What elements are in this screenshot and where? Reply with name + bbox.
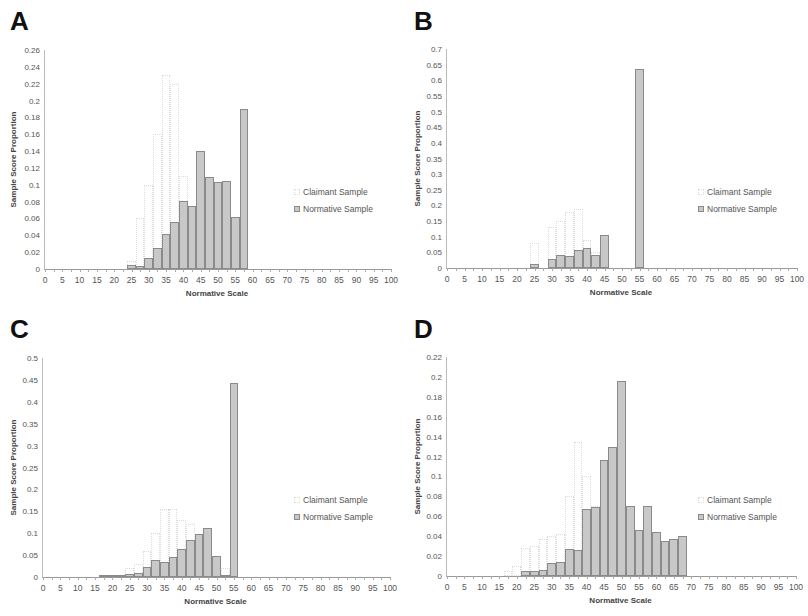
x-tick-mark <box>561 268 562 271</box>
x-tick-mark <box>365 269 366 272</box>
y-tick-label: 0.1 <box>27 529 38 538</box>
x-tick-mark <box>106 269 107 272</box>
normative-bar <box>643 506 652 576</box>
chart-panel-c: C00.050.10.150.20.250.30.350.40.450.5051… <box>0 308 404 616</box>
x-tick-mark <box>675 268 676 271</box>
x-tick-mark <box>43 577 44 580</box>
x-tick-mark <box>605 268 606 271</box>
x-tick-label: 20 <box>108 583 117 593</box>
normative-bar <box>240 109 249 269</box>
legend-item: Claimant Sample <box>698 491 777 508</box>
y-tick-label: 0.65 <box>426 60 442 69</box>
x-tick-mark <box>665 576 666 579</box>
x-tick-mark <box>234 577 235 580</box>
x-tick-label: 40 <box>582 582 591 592</box>
y-tick-label: 0.08 <box>426 492 442 501</box>
x-tick-mark <box>517 576 518 579</box>
legend-label: Normative Sample <box>303 512 373 522</box>
x-tick-mark <box>164 577 165 580</box>
x-tick-label: 100 <box>383 583 397 593</box>
y-axis-label: Sample Score Proportion <box>9 412 18 522</box>
normative-bar <box>669 539 678 576</box>
normative-bar <box>186 540 195 577</box>
y-tick-label: 0.22 <box>24 79 40 88</box>
x-tick-label: 30 <box>144 275 153 285</box>
x-tick-mark <box>190 577 191 580</box>
normative-bar <box>125 574 134 577</box>
legend-item: Normative Sample <box>294 200 373 217</box>
x-tick-label: 60 <box>248 275 257 285</box>
normative-bar <box>222 181 231 269</box>
normative-bar <box>230 383 239 577</box>
x-tick-label: 65 <box>670 274 679 284</box>
x-tick-label: 75 <box>299 583 308 593</box>
legend: Claimant SampleNormative Sample <box>294 491 373 525</box>
x-tick-mark <box>356 269 357 272</box>
x-tick-label: 65 <box>669 582 678 592</box>
x-tick-label: 45 <box>196 275 205 285</box>
x-tick-mark <box>648 576 649 579</box>
x-tick-mark <box>78 577 79 580</box>
x-tick-label: 90 <box>352 275 361 285</box>
x-tick-mark <box>761 576 762 579</box>
plot-area: 00.020.040.060.080.10.120.140.160.180.20… <box>446 357 796 577</box>
y-tick-label: 0.05 <box>22 551 38 560</box>
x-tick-label: 55 <box>634 582 643 592</box>
legend-swatch-icon <box>698 189 704 195</box>
x-tick-label: 100 <box>790 274 804 284</box>
x-tick-mark <box>465 268 466 271</box>
x-tick-mark <box>787 576 788 579</box>
x-tick-mark <box>260 577 261 580</box>
legend-label: Normative Sample <box>303 204 373 214</box>
x-tick-mark <box>796 576 797 579</box>
x-axis-label: Normative Scale <box>590 288 652 297</box>
x-tick-mark <box>209 269 210 272</box>
legend-item: Claimant Sample <box>294 491 373 508</box>
x-tick-mark <box>183 269 184 272</box>
normative-bar <box>169 557 178 577</box>
x-tick-mark <box>587 268 588 271</box>
x-tick-mark <box>710 268 711 271</box>
y-tick-label: 0 <box>34 573 38 582</box>
x-tick-mark <box>526 576 527 579</box>
x-tick-mark <box>570 268 571 271</box>
panel-label: B <box>414 6 433 37</box>
normative-bar <box>591 255 600 268</box>
x-tick-label: 85 <box>740 274 749 284</box>
legend-swatch-icon <box>698 206 704 212</box>
x-tick-label: 70 <box>687 274 696 284</box>
x-tick-mark <box>199 577 200 580</box>
y-axis-label: Sample Score Proportion <box>413 411 422 521</box>
y-tick-label: 0.25 <box>426 185 442 194</box>
x-tick-label: 10 <box>477 582 486 592</box>
normative-bar <box>108 575 117 577</box>
x-tick-mark <box>182 577 183 580</box>
x-tick-label: 95 <box>368 583 377 593</box>
y-tick-label: 0.12 <box>24 163 40 172</box>
x-tick-mark <box>261 269 262 272</box>
x-tick-mark <box>217 577 218 580</box>
x-tick-mark <box>243 577 244 580</box>
x-tick-label: 80 <box>317 275 326 285</box>
normative-bar <box>547 563 556 576</box>
x-tick-mark <box>683 576 684 579</box>
x-tick-label: 75 <box>704 582 713 592</box>
x-tick-mark <box>473 576 474 579</box>
x-tick-mark <box>121 577 122 580</box>
x-tick-label: 20 <box>512 582 521 592</box>
x-tick-mark <box>657 268 658 271</box>
x-tick-mark <box>253 269 254 272</box>
chart-panel-d: D00.020.040.060.080.10.120.140.160.180.2… <box>404 308 808 616</box>
x-tick-label: 15 <box>92 275 101 285</box>
legend-swatch-icon <box>294 514 300 520</box>
y-tick-label: 0.6 <box>431 76 442 85</box>
x-tick-mark <box>140 269 141 272</box>
normative-bar <box>530 264 539 268</box>
normative-bar <box>162 234 171 269</box>
x-tick-mark <box>622 576 623 579</box>
y-tick-label: 0.1 <box>431 232 442 241</box>
x-tick-mark <box>717 576 718 579</box>
claimant-bar <box>512 566 521 576</box>
x-tick-mark <box>227 269 228 272</box>
legend-swatch-icon <box>294 206 300 212</box>
